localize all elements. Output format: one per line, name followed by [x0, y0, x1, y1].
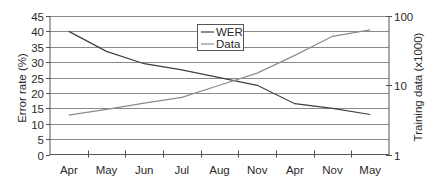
x-tick-label: Apr [60, 164, 78, 176]
right-tick-label: 1 [394, 150, 400, 162]
left-tick-label: 45 [31, 11, 44, 23]
x-tick-label: Aug [209, 164, 229, 176]
left-tick-label: 0 [38, 150, 44, 162]
x-tick-label: May [96, 164, 118, 176]
x-tick-label: Jun [135, 164, 154, 176]
right-axis-tick-labels: 110100 [386, 11, 413, 162]
left-tick-label: 30 [31, 57, 44, 69]
legend-label-data: Data [216, 38, 241, 50]
left-tick-label: 40 [31, 26, 44, 38]
left-tick-label: 15 [31, 103, 44, 115]
legend: WER Data [198, 25, 244, 51]
left-tick-label: 10 [31, 119, 44, 131]
x-tick-label: Nov [247, 164, 268, 176]
dual-axis-line-chart: 051015202530354045 110100 AprMayJunJulAu… [0, 0, 438, 187]
right-tick-label: 100 [394, 11, 413, 23]
right-tick-label: 10 [394, 80, 407, 92]
right-axis-title: Training data (x1000) [412, 32, 424, 141]
left-tick-label: 35 [31, 42, 44, 54]
x-axis-tick-labels: AprMayJunJulAugNovAprNovMay [60, 164, 381, 176]
left-tick-label: 25 [31, 73, 44, 85]
x-tick-label: Nov [322, 164, 343, 176]
left-tick-label: 5 [38, 134, 44, 146]
left-axis-title: Error rate (%) [16, 53, 28, 123]
left-tick-label: 20 [31, 88, 44, 100]
legend-label-wer: WER [216, 26, 243, 38]
left-axis-tick-labels: 051015202530354045 [31, 11, 50, 162]
x-tick-label: Apr [286, 164, 304, 176]
x-tick-label: May [359, 164, 381, 176]
x-tick-label: Jul [174, 164, 189, 176]
